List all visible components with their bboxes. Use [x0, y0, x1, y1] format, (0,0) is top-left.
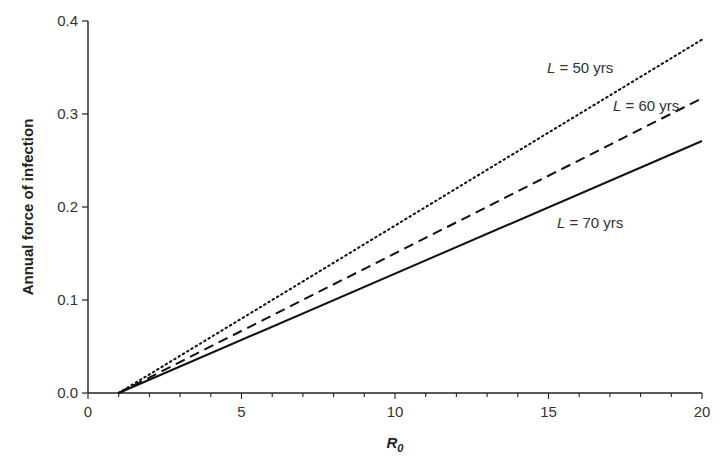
y-tick-label: 0.2 — [57, 198, 78, 215]
series-label: L = 50 yrs — [547, 59, 613, 76]
y-tick-label: 0.3 — [57, 105, 78, 122]
series-label: L = 70 yrs — [557, 214, 623, 231]
x-axis-title: R0 — [387, 434, 405, 454]
y-tick-label: 0.1 — [57, 291, 78, 308]
x-axis-title-main: R — [387, 434, 398, 451]
series-labels: L = 50 yrsL = 60 yrsL = 70 yrs — [547, 59, 679, 231]
y-axis-title: Annual force of infection — [19, 119, 36, 296]
x-axis-title-sub: 0 — [397, 442, 404, 454]
x-tick-label: 20 — [694, 403, 711, 420]
series-label: L = 60 yrs — [613, 97, 679, 114]
x-tick-label: 0 — [84, 403, 92, 420]
series-line-dashed — [119, 98, 702, 393]
y-tick-label: 0.4 — [57, 12, 78, 29]
chart: 0.00.10.20.30.405101520 L = 50 yrsL = 60… — [0, 0, 724, 466]
x-tick-label: 10 — [387, 403, 404, 420]
series-line-solid — [119, 141, 702, 393]
y-tick-label: 0.0 — [57, 384, 78, 401]
x-tick-label: 5 — [237, 403, 245, 420]
x-tick-label: 15 — [540, 403, 557, 420]
